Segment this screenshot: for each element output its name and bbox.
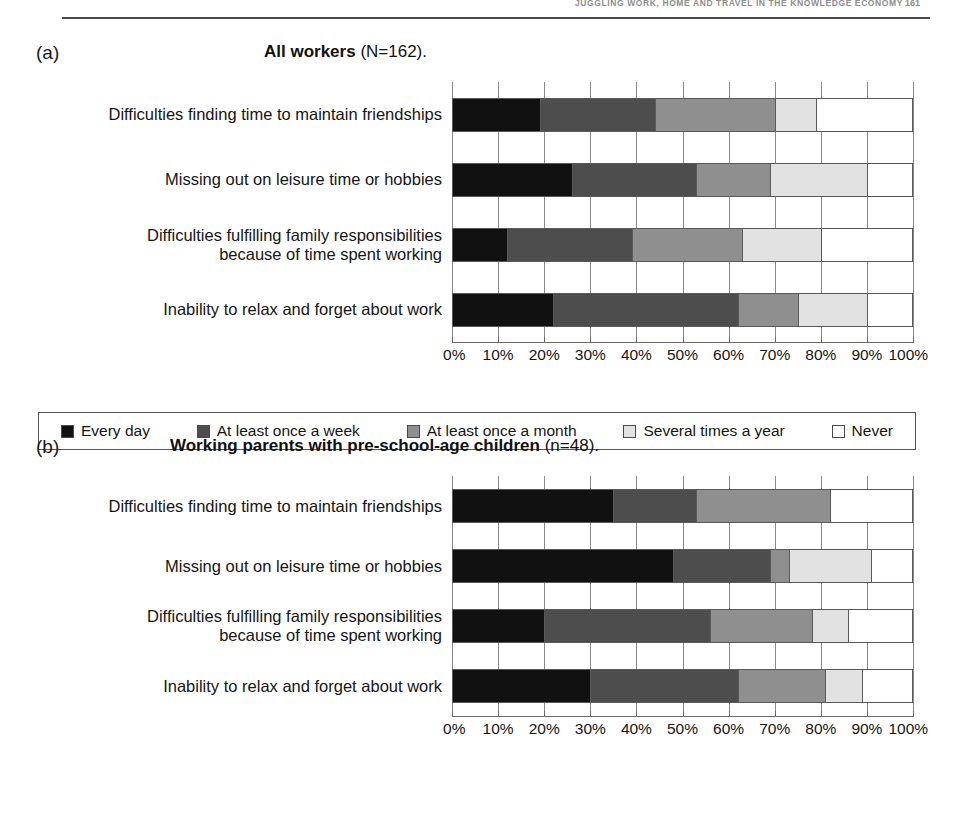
- legend-item[interactable]: Never: [832, 422, 893, 440]
- bar-segment[interactable]: [867, 293, 913, 327]
- bar-segment[interactable]: [696, 489, 830, 523]
- stacked-bar[interactable]: [452, 228, 913, 262]
- bar-segment[interactable]: [507, 228, 631, 262]
- running-head-page-number: 161: [905, 0, 920, 8]
- bar-segment[interactable]: [812, 609, 849, 643]
- chart-row-label: Missing out on leisure time or hobbies: [0, 170, 452, 189]
- bar-segment[interactable]: [770, 163, 867, 197]
- figure-page: Juggling work, home and travel in the kn…: [0, 0, 963, 830]
- axis-tick: [498, 711, 499, 717]
- chart-row: Difficulties fulfilling family responsib…: [0, 212, 913, 277]
- axis-tick: [683, 337, 684, 343]
- bar-segment[interactable]: [452, 489, 613, 523]
- chart-plot-area: [452, 82, 913, 147]
- bar-segment[interactable]: [452, 293, 553, 327]
- gridline: [913, 476, 914, 536]
- axis-tick-label: 80%: [805, 346, 836, 364]
- chart-plot-area: [452, 212, 913, 277]
- bar-segment[interactable]: [816, 98, 913, 132]
- axis-tick-label: 60%: [713, 346, 744, 364]
- axis-tick-label: 60%: [713, 720, 744, 738]
- axis-tick-label: 70%: [759, 346, 790, 364]
- axis-tick: [867, 711, 868, 717]
- bar-segment[interactable]: [553, 293, 737, 327]
- chart-row-label: Inability to relax and forget about work: [0, 677, 452, 696]
- legend-swatch-icon: [832, 425, 845, 438]
- axis-tick: [729, 711, 730, 717]
- header-rule: [62, 17, 930, 19]
- bar-segment[interactable]: [848, 609, 913, 643]
- axis-tick-label: 0%: [443, 720, 465, 738]
- axis-tick: [498, 337, 499, 343]
- axis-tick: [544, 337, 545, 343]
- axis-tick-label: 30%: [575, 720, 606, 738]
- bar-segment[interactable]: [830, 489, 913, 523]
- chart-row-label: Inability to relax and forget about work: [0, 300, 452, 319]
- stacked-bar[interactable]: [452, 163, 913, 197]
- axis-tick: [590, 711, 591, 717]
- axis-tick-label: 50%: [667, 720, 698, 738]
- bar-segment[interactable]: [867, 163, 913, 197]
- bar-segment[interactable]: [452, 228, 507, 262]
- stacked-bar[interactable]: [452, 98, 913, 132]
- axis-tick: [636, 711, 637, 717]
- bar-segment[interactable]: [871, 549, 912, 583]
- stacked-bar[interactable]: [452, 549, 913, 583]
- chart-row: Missing out on leisure time or hobbies: [0, 536, 913, 596]
- bar-segment[interactable]: [544, 609, 710, 643]
- stacked-bar[interactable]: [452, 293, 913, 327]
- bar-segment[interactable]: [710, 609, 811, 643]
- chart-row: Inability to relax and forget about work: [0, 277, 913, 342]
- bar-segment[interactable]: [742, 228, 820, 262]
- bar-segment[interactable]: [590, 669, 738, 703]
- bar-segment[interactable]: [789, 549, 872, 583]
- bar-segment[interactable]: [452, 669, 590, 703]
- legend-item[interactable]: Every day: [61, 422, 150, 440]
- bar-segment[interactable]: [452, 98, 540, 132]
- bar-segment[interactable]: [738, 293, 798, 327]
- bar-segment[interactable]: [798, 293, 867, 327]
- axis-tick-label: 100%: [888, 346, 928, 364]
- chart-row-label: Difficulties fulfilling family responsib…: [0, 226, 452, 264]
- bar-segment[interactable]: [572, 163, 696, 197]
- axis-tick-label: 70%: [759, 720, 790, 738]
- bar-segment[interactable]: [452, 163, 572, 197]
- legend-label: Never: [852, 422, 893, 440]
- bar-segment[interactable]: [452, 609, 544, 643]
- legend-item[interactable]: Several times a year: [623, 422, 784, 440]
- bar-segment[interactable]: [452, 549, 673, 583]
- gridline: [913, 277, 914, 342]
- stacked-bar[interactable]: [452, 489, 913, 523]
- bar-segment[interactable]: [632, 228, 743, 262]
- chart-b: Difficulties finding time to maintain fr…: [0, 476, 913, 746]
- axis-tick: [452, 337, 453, 343]
- bar-segment[interactable]: [673, 549, 770, 583]
- gridline: [913, 536, 914, 596]
- panel-b-title: Working parents with pre-school-age chil…: [170, 436, 599, 456]
- panel-b-title-rest: (n=48).: [540, 436, 599, 455]
- bar-segment[interactable]: [696, 163, 770, 197]
- panel-a-title-strong: All workers: [264, 42, 356, 61]
- chart-row: Difficulties fulfilling family responsib…: [0, 596, 913, 656]
- axis-tick-label: 10%: [483, 346, 514, 364]
- gridline: [913, 147, 914, 212]
- axis-tick-label: 90%: [851, 346, 882, 364]
- axis-tick: [821, 711, 822, 717]
- bar-segment[interactable]: [825, 669, 862, 703]
- chart-plot-area: [452, 476, 913, 536]
- stacked-bar[interactable]: [452, 669, 913, 703]
- bar-segment[interactable]: [775, 98, 816, 132]
- bar-segment[interactable]: [862, 669, 913, 703]
- gridline: [913, 212, 914, 277]
- chart-row: Difficulties finding time to maintain fr…: [0, 82, 913, 147]
- chart-plot-area: [452, 536, 913, 596]
- bar-segment[interactable]: [613, 489, 696, 523]
- bar-segment[interactable]: [770, 549, 788, 583]
- bar-segment[interactable]: [655, 98, 775, 132]
- running-head-title: Juggling work, home and travel in the kn…: [575, 0, 903, 8]
- bar-segment[interactable]: [738, 669, 826, 703]
- bar-segment[interactable]: [540, 98, 655, 132]
- bar-segment[interactable]: [821, 228, 913, 262]
- chart-row-label: Difficulties fulfilling family responsib…: [0, 607, 452, 645]
- stacked-bar[interactable]: [452, 609, 913, 643]
